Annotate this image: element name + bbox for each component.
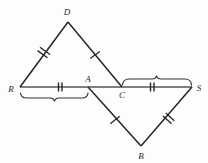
vertex-label-R: R	[8, 85, 14, 94]
vertex-label-S: S	[197, 84, 202, 93]
vertex-label-B: B	[138, 152, 144, 161]
geometry-figure: D R A C S B	[0, 0, 208, 163]
vertex-label-A: A	[85, 75, 91, 84]
vertex-label-D: D	[64, 8, 71, 17]
segment-A-B	[88, 87, 141, 146]
brace-R-A	[21, 93, 89, 102]
brace-C-S	[123, 76, 192, 86]
geometry-canvas	[0, 0, 208, 163]
segment-B-S	[141, 87, 192, 146]
vertex-label-C: C	[119, 91, 125, 100]
